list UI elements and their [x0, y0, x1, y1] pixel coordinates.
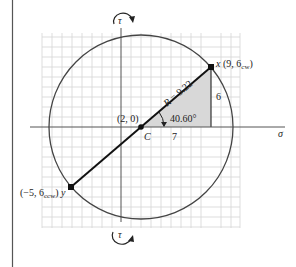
tau-bottom-label: τ [118, 229, 122, 240]
mohr-circle-diagram: τ τ σ (2, 0) C 7 6 40.60° R = 9.22 x (9,… [0, 0, 296, 267]
angle-label: 40.60° [170, 113, 197, 124]
center-point [138, 124, 144, 130]
point-y-label: (−5, 6ccw) y [20, 187, 66, 200]
rotation-arrow-top-icon [114, 13, 132, 24]
rotation-arrowhead-bottom-icon [128, 235, 134, 242]
triangle-height-label: 6 [216, 91, 221, 102]
grid [42, 33, 240, 228]
sigma-axis-label: σ [278, 128, 284, 139]
point-y-marker [68, 184, 74, 190]
triangle-base-label: 7 [172, 131, 177, 142]
center-name-label: C [144, 131, 151, 142]
point-x-marker [208, 64, 214, 70]
rotation-arrowhead-top-icon [129, 16, 135, 23]
tau-top-label: τ [118, 15, 122, 26]
center-coords-label: (2, 0) [117, 113, 139, 125]
